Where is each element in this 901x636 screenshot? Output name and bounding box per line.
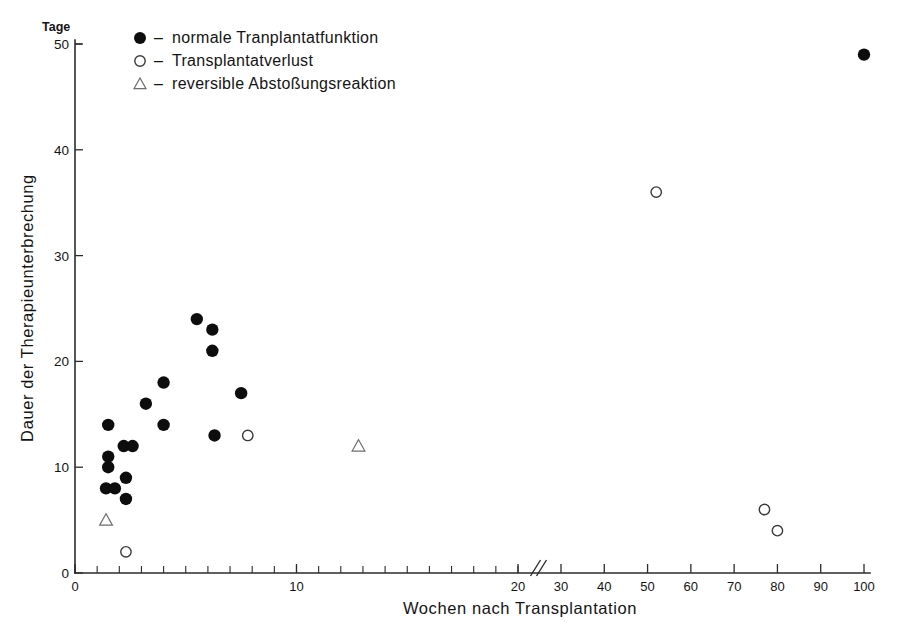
axis-ticks [75,44,864,576]
chart-legend: –normale Tranplantatfunktion–Transplanta… [134,29,396,92]
data-points [100,48,871,557]
data-point-normal-function [126,440,138,452]
legend-marker-open-triangle-icon [134,78,146,89]
axis-tick-labels: 010203040500102030405060708090100 [54,37,875,594]
x-tick-label: 30 [554,579,568,594]
legend-dash: – [154,75,163,92]
data-point-normal-function [206,323,218,335]
x-tick-label: 90 [813,579,827,594]
data-point-normal-function [140,398,152,410]
data-point-graft-loss [772,525,782,535]
legend-item-label: Transplantatverlust [172,52,313,69]
legend-dash: – [154,29,163,46]
data-point-normal-function [157,376,169,388]
legend-marker-filled-circle-icon [134,32,146,44]
data-point-normal-function [858,48,870,60]
legend-dash: – [154,52,163,69]
y-tick-label: 0 [61,566,69,581]
legend-item-label: reversible Abstoßungsreaktion [172,75,396,92]
data-point-reversible-rejection [352,440,365,451]
y-tick-label: 40 [54,143,69,158]
y-tick-label: 50 [54,37,69,52]
data-point-normal-function [206,345,218,357]
x-tick-label: 60 [684,579,698,594]
data-point-normal-function [120,493,132,505]
x-tick-label: 20 [511,579,525,594]
x-tick-label: 0 [71,579,78,594]
data-point-graft-loss [243,430,253,440]
x-tick-label: 50 [640,579,654,594]
y-axis-title: Dauer der Therapieunterbrechung [18,174,36,442]
data-point-normal-function [109,482,121,494]
axes [75,40,870,573]
scatter-chart: 010203040500102030405060708090100 –norma… [0,0,901,636]
x-tick-label: 40 [597,579,611,594]
data-point-normal-function [102,419,114,431]
data-point-reversible-rejection [100,514,113,525]
x-tick-label: 80 [770,579,784,594]
x-tick-label: 100 [853,579,875,594]
x-tick-label: 70 [727,579,741,594]
legend-marker-open-circle-icon [135,56,145,66]
plot-canvas: 010203040500102030405060708090100 –norma… [0,0,901,636]
data-point-graft-loss [759,504,769,514]
data-point-normal-function [120,472,132,484]
x-axis-title: Wochen nach Transplantation [403,599,637,617]
data-point-normal-function [157,419,169,431]
data-point-normal-function [208,429,220,441]
legend-item-label: normale Tranplantatfunktion [172,29,378,46]
data-point-normal-function [102,450,114,462]
data-point-graft-loss [121,547,131,557]
y-tick-label: 20 [54,354,69,369]
data-point-normal-function [191,313,203,325]
y-tick-label: 10 [54,460,69,475]
data-point-normal-function [102,461,114,473]
data-point-normal-function [235,387,247,399]
y-axis-unit-label: Tage [42,20,70,34]
y-tick-label: 30 [54,249,69,264]
x-tick-label: 10 [289,579,303,594]
data-point-graft-loss [651,187,661,197]
